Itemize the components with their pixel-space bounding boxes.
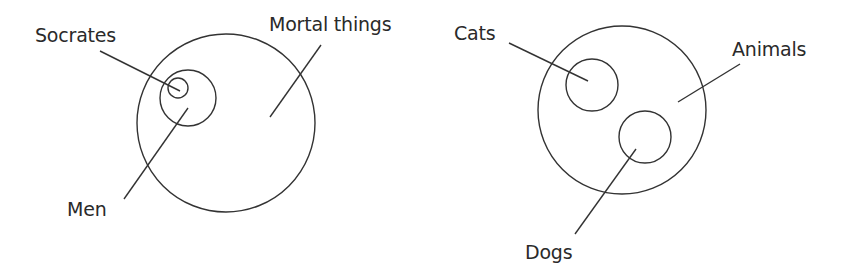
label-animals: Animals	[732, 40, 806, 59]
set-socrates-circle	[168, 78, 188, 98]
leader-animals	[678, 64, 740, 102]
leader-socrates	[100, 51, 180, 91]
label-socrates: Socrates	[35, 26, 116, 45]
leader-dogs	[575, 149, 636, 234]
label-mortal-things: Mortal things	[269, 15, 391, 34]
label-dogs: Dogs	[525, 243, 572, 262]
label-cats: Cats	[454, 24, 495, 43]
set-men-circle	[160, 70, 216, 126]
set-mortal-things-circle	[137, 34, 315, 212]
diagram-socrates	[100, 34, 321, 212]
venn-diagrams	[0, 0, 852, 275]
leader-cats	[509, 43, 588, 81]
diagram-animals	[509, 26, 740, 234]
label-men: Men	[67, 200, 107, 219]
leader-men	[124, 108, 188, 199]
set-dogs-circle	[619, 111, 671, 163]
set-cats-circle	[566, 59, 618, 111]
